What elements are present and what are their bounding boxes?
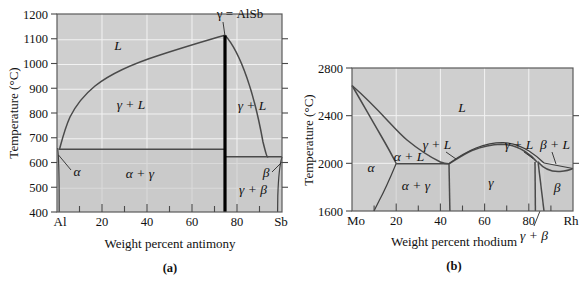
y-tick-label-a-4: 800 [29, 107, 48, 121]
y-ticks-right-a [282, 39, 288, 188]
phase-diagram-figure: 400 500 600 700 800 900 1000 1100 1200 A… [0, 0, 588, 284]
phase-label-a-beta: β [262, 165, 270, 180]
x-tick-label-a-40: 40 [141, 215, 154, 229]
y-tick-label-a-3: 700 [29, 131, 48, 145]
y-tick-label-b-3: 2800 [318, 62, 343, 76]
panel-b: 1600 2000 2400 2800 Mo 20 40 60 80 Rh Te… [294, 0, 588, 284]
phase-label-b-alpha-plus-liquid: α + L [394, 149, 424, 164]
y-tick-label-b-0: 1600 [318, 205, 343, 219]
panel-b-svg: 1600 2000 2400 2800 Mo 20 40 60 80 Rh Te… [294, 0, 588, 284]
x-tick-label-a-right-end: Sb [274, 214, 288, 229]
phase-label-a-gamma-plus-liquid-right: γ + L [238, 98, 267, 113]
y-ticks-right-b [573, 116, 579, 164]
phase-label-b-gamma-plus-liquid-right: γ + L [505, 137, 534, 152]
phase-label-a-gamma-plus-liquid-left: γ + L [117, 97, 146, 112]
phase-label-a-gamma-plus-beta: γ + β [239, 182, 267, 197]
y-axis-title-b: Temperature (°C) [301, 94, 316, 185]
x-tick-label-a-80: 80 [231, 215, 244, 229]
phase-label-b-beta-plus-liquid: β + L [539, 137, 570, 152]
x-tick-label-b-40: 40 [434, 214, 447, 228]
phase-label-b-liquid: L [457, 100, 466, 115]
x-tick-label-b-80: 80 [523, 214, 536, 228]
y-tick-label-a-1: 500 [29, 181, 48, 195]
y-tick-label-a-5: 900 [29, 82, 48, 96]
phase-label-a-alpha-plus-gamma: α + γ [126, 166, 155, 181]
x-tick-label-b-right-end: Rh [563, 213, 579, 228]
y-tick-label-a-7: 1100 [23, 32, 48, 46]
y-tick-label-a-8: 1200 [23, 8, 48, 22]
caption-a: (a) [163, 261, 178, 275]
panel-a: 400 500 600 700 800 900 1000 1100 1200 A… [0, 0, 294, 284]
x-axis-title-b: Weight percent rhodium [391, 234, 517, 249]
phase-label-b-beta: β [553, 180, 561, 195]
x-tick-label-a-left-end: Al [54, 214, 67, 229]
y-ticks-b [346, 68, 352, 211]
x-axis-title-a: Weight percent antimony [104, 236, 236, 251]
phase-label-b-gamma-plus-liquid-left: γ + L [423, 137, 452, 152]
x-tick-label-a-20: 20 [96, 215, 109, 229]
panel-a-svg: 400 500 600 700 800 900 1000 1100 1200 A… [0, 0, 294, 284]
x-tick-label-b-20: 20 [390, 214, 403, 228]
y-tick-label-b-1: 2000 [318, 157, 343, 171]
phase-label-a-alpha: α [73, 164, 81, 179]
caption-b: (b) [446, 259, 461, 273]
x-tick-label-a-60: 60 [186, 215, 199, 229]
phase-label-b-gamma-plus-beta: γ + β [520, 228, 548, 243]
y-ticks-a [51, 14, 57, 212]
x-tick-label-b-left-end: Mo [347, 213, 365, 228]
y-tick-label-a-6: 1000 [23, 57, 48, 71]
gamma-left-boundary-b [449, 164, 450, 211]
phase-label-a-liquid: L [113, 38, 122, 53]
phase-label-b-alpha: α [367, 160, 375, 175]
y-tick-label-a-2: 600 [29, 156, 48, 170]
y-tick-label-b-2: 2400 [318, 109, 343, 123]
y-tick-label-a-0: 400 [29, 206, 48, 220]
x-tick-label-b-60: 60 [478, 214, 491, 228]
phase-label-b-gamma: γ [488, 175, 494, 190]
compound-label-a: γ = AlSb [216, 6, 263, 21]
phase-label-b-alpha-plus-gamma: α + γ [402, 178, 431, 193]
y-axis-title-a: Temperature (°C) [6, 67, 21, 158]
